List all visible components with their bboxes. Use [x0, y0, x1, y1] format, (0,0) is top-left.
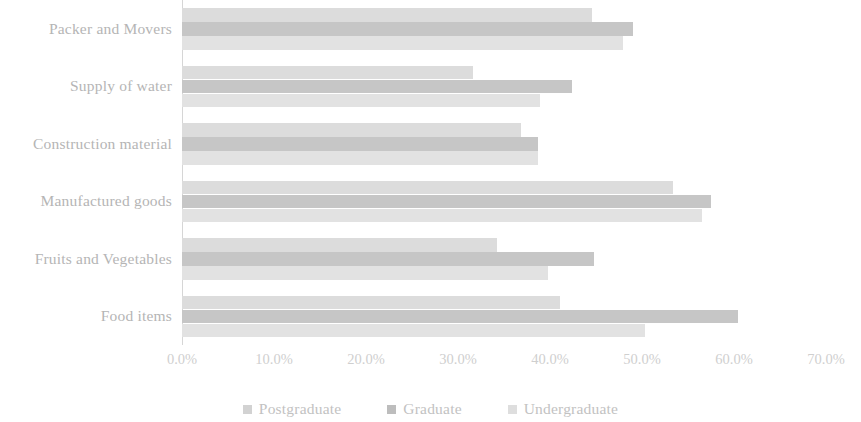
bar-postgraduate [182, 238, 497, 252]
legend-label: Undergraduate [524, 400, 618, 418]
bar-graduate [182, 22, 633, 36]
bar-undergraduate [182, 266, 548, 280]
category-label: Supply of water [70, 77, 172, 95]
legend-item[interactable]: Postgraduate [243, 400, 341, 418]
category-row: Supply of water [0, 58, 861, 116]
x-tick-label: 50.0% [623, 351, 660, 368]
x-tick-label: 70.0% [807, 351, 844, 368]
bar-group [182, 64, 826, 108]
bar-undergraduate [182, 94, 540, 108]
x-axis-tick-labels: 0.0%10.0%20.0%30.0%40.0%50.0%60.0%70.0% [0, 345, 861, 375]
x-tick-label: 0.0% [167, 351, 197, 368]
category-row: Construction material [0, 115, 861, 173]
bar-graduate [182, 310, 738, 324]
category-row: Manufactured goods [0, 173, 861, 231]
category-label: Packer and Movers [49, 20, 172, 38]
bar-undergraduate [182, 36, 623, 50]
bar-postgraduate [182, 181, 673, 195]
legend-swatch-icon [387, 405, 396, 414]
x-tick-label: 20.0% [347, 351, 384, 368]
bar-postgraduate [182, 296, 560, 310]
category-label: Construction material [33, 135, 172, 153]
bar-postgraduate [182, 66, 473, 80]
bar-group [182, 237, 826, 281]
bar-undergraduate [182, 151, 538, 165]
x-tick-label: 60.0% [715, 351, 752, 368]
bar-postgraduate [182, 123, 521, 137]
legend-item[interactable]: Undergraduate [508, 400, 618, 418]
bar-graduate [182, 252, 594, 266]
category-label: Manufactured goods [41, 192, 172, 210]
x-tick-label: 30.0% [439, 351, 476, 368]
bar-undergraduate [182, 209, 702, 223]
category-row: Fruits and Vegetables [0, 230, 861, 288]
bar-undergraduate [182, 324, 645, 338]
chart-legend: PostgraduateGraduateUndergraduate [0, 396, 861, 422]
plot-rows: Packer and MoversSupply of waterConstruc… [0, 0, 861, 345]
bar-graduate [182, 80, 572, 94]
legend-item[interactable]: Graduate [387, 400, 461, 418]
bar-graduate [182, 195, 711, 209]
category-row: Food items [0, 288, 861, 346]
x-tick-label: 10.0% [255, 351, 292, 368]
x-tick-label: 40.0% [531, 351, 568, 368]
bar-postgraduate [182, 8, 592, 22]
bar-graduate [182, 137, 538, 151]
category-row: Packer and Movers [0, 0, 861, 58]
legend-swatch-icon [508, 405, 517, 414]
grouped-bar-chart: Packer and MoversSupply of waterConstruc… [0, 0, 861, 422]
bar-group [182, 7, 826, 51]
legend-swatch-icon [243, 405, 252, 414]
bar-group [182, 122, 826, 166]
legend-label: Graduate [403, 400, 461, 418]
category-label: Fruits and Vegetables [35, 250, 172, 268]
category-label: Food items [101, 307, 172, 325]
legend-label: Postgraduate [259, 400, 341, 418]
bar-group [182, 179, 826, 223]
bar-group [182, 294, 826, 338]
